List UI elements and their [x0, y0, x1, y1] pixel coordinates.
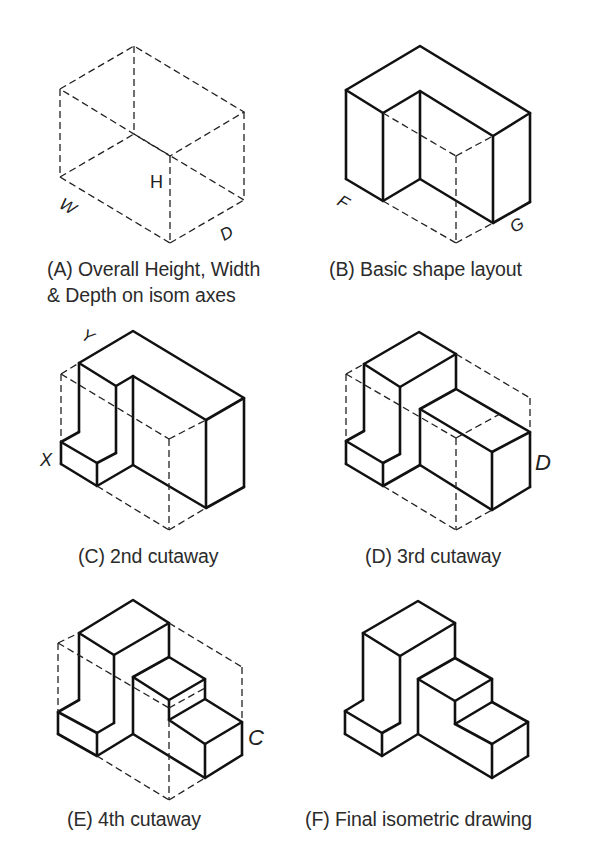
caption-a-line2: & Depth on isom axes [47, 284, 236, 306]
side-c-label: C [248, 725, 264, 750]
caption-b: (B) Basic shape layout [329, 258, 522, 280]
width-label: W [56, 194, 81, 219]
corner-f-label: F [334, 191, 354, 213]
panel-d-third-cutaway: D [346, 332, 551, 530]
caption-d: (D) 3rd cutaway [365, 545, 501, 567]
caption-a-line1: (A) Overall Height, Width [47, 258, 260, 280]
side-d-label: D [535, 450, 551, 475]
panel-e-fourth-cutaway: C [58, 600, 264, 800]
panel-a-bounding-box: H W D [56, 46, 244, 245]
panel-c-second-cutaway: X Y [39, 325, 244, 530]
corner-g-label: G [507, 214, 528, 237]
top-y-label: Y [78, 325, 99, 348]
depth-label: D [217, 222, 237, 245]
isometric-steps-figure: H W D F G X [0, 0, 610, 861]
caption-e: (E) 4th cutaway [67, 808, 201, 830]
panel-f-final-drawing [345, 601, 528, 778]
step-x-label: X [39, 450, 53, 470]
height-label: H [150, 172, 163, 192]
caption-c: (C) 2nd cutaway [78, 545, 218, 567]
caption-f: (F) Final isometric drawing [305, 808, 532, 830]
panel-b-basic-shape: F G [334, 46, 530, 243]
